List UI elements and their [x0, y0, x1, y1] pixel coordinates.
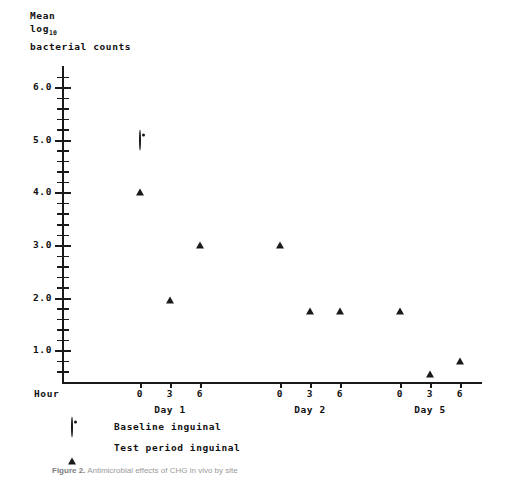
hour-axis-label: Hour — [34, 388, 59, 399]
y-axis-tick-label: 6.0 — [22, 81, 52, 92]
x-axis-tick-label: 6 — [457, 388, 463, 399]
y-axis-title-subscript: 10 — [49, 29, 57, 37]
y-axis-tick-label: 5.0 — [22, 134, 52, 145]
legend-label-test-period: Test period inguinal — [114, 442, 240, 453]
circle-marker-icon — [71, 418, 73, 437]
y-axis-tick-label: 3.0 — [22, 239, 52, 250]
y-axis-minor-tick — [57, 161, 69, 163]
y-axis-minor-tick — [57, 319, 69, 321]
triangle-marker-icon — [276, 222, 284, 248]
x-axis-tick-label: 3 — [427, 388, 433, 399]
x-axis-tick-label: 3 — [167, 388, 173, 399]
triangle-marker-icon — [426, 351, 434, 377]
caption-figure-number: Figure 2. — [52, 466, 85, 475]
y-axis-minor-tick — [57, 171, 69, 173]
y-axis-tick-label: 1.0 — [22, 344, 52, 355]
y-axis-minor-tick — [57, 98, 69, 100]
y-axis-minor-tick — [57, 340, 69, 342]
y-axis-title-line3: bacterial counts — [30, 41, 131, 52]
x-axis-tick-label: 6 — [197, 388, 203, 399]
y-axis-minor-tick — [57, 266, 69, 268]
data-point — [276, 222, 284, 241]
x-axis-group-label: Day 5 — [414, 404, 446, 415]
legend-item-test-period: Test period inguinal — [0, 442, 505, 463]
y-axis-minor-tick — [57, 361, 69, 363]
y-axis-major-tick — [55, 87, 71, 89]
data-point — [136, 170, 144, 189]
plot-area — [62, 66, 482, 384]
y-axis-minor-tick — [57, 277, 69, 279]
x-axis-line — [62, 382, 482, 384]
triangle-marker-icon — [196, 222, 204, 248]
y-axis-minor-tick — [57, 150, 69, 152]
y-axis-title: Mean log10 bacterial counts — [30, 9, 131, 53]
y-axis-minor-tick — [57, 203, 69, 205]
y-axis-minor-tick — [57, 371, 69, 373]
y-axis-major-tick — [55, 140, 71, 142]
y-axis-major-tick — [55, 245, 71, 247]
y-axis-major-tick — [55, 298, 71, 300]
triangle-marker-icon — [68, 439, 76, 458]
y-axis-tick-label: 4.0 — [22, 186, 52, 197]
data-point — [396, 288, 404, 307]
y-axis-minor-tick — [57, 308, 69, 310]
triangle-marker-icon — [396, 288, 404, 314]
triangle-marker-icon — [166, 278, 174, 304]
legend-label-baseline: Baseline inguinal — [114, 421, 221, 432]
y-axis-minor-tick — [57, 213, 69, 215]
y-axis-title-line2: log — [30, 23, 49, 34]
triangle-marker-icon — [306, 288, 314, 314]
y-axis-tick-label: 2.0 — [22, 292, 52, 303]
data-point — [166, 278, 174, 297]
x-axis-tick-label: 6 — [337, 388, 343, 399]
y-axis-minor-tick — [57, 235, 69, 237]
x-axis-group-label: Day 2 — [294, 404, 326, 415]
figure-caption: Figure 2. Antimicrobial effects of CHG i… — [52, 466, 492, 475]
data-point — [139, 130, 141, 149]
y-axis-minor-tick — [57, 224, 69, 226]
circle-marker-icon — [139, 129, 141, 150]
y-axis-minor-tick — [57, 182, 69, 184]
caption-text: Antimicrobial effects of CHG in vivo by … — [87, 466, 238, 475]
y-axis-minor-tick — [57, 77, 69, 79]
x-axis-tick-label: 0 — [277, 388, 283, 399]
y-axis-major-tick — [55, 350, 71, 352]
x-axis-group-label: Day 1 — [154, 404, 186, 415]
y-axis-minor-tick — [57, 129, 69, 131]
data-point — [426, 351, 434, 370]
triangle-marker-icon — [136, 170, 144, 196]
y-axis-minor-tick — [57, 287, 69, 289]
x-axis-tick-label: 3 — [307, 388, 313, 399]
legend: Baseline inguinal Test period inguinal — [0, 421, 505, 463]
triangle-marker-icon — [336, 288, 344, 314]
y-axis-minor-tick — [57, 329, 69, 331]
y-axis-minor-tick — [57, 256, 69, 258]
data-point — [306, 288, 314, 307]
data-point — [336, 288, 344, 307]
y-axis-minor-tick — [57, 108, 69, 110]
triangle-marker-icon — [456, 338, 464, 364]
x-axis-tick-label: 0 — [137, 388, 143, 399]
data-point — [196, 222, 204, 241]
data-point — [456, 338, 464, 357]
x-axis-tick-label: 0 — [397, 388, 403, 399]
y-axis-title-line1: Mean — [30, 10, 55, 21]
y-axis-major-tick — [55, 192, 71, 194]
y-axis-minor-tick — [57, 119, 69, 121]
figure-container: Mean log10 bacterial counts Hour Baselin… — [0, 0, 505, 480]
